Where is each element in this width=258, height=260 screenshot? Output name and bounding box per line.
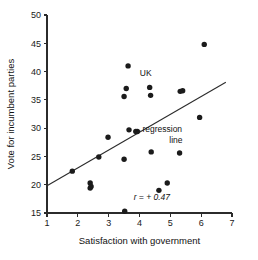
y-tick-label: 35 bbox=[31, 95, 41, 105]
x-tick-label: 5 bbox=[168, 218, 173, 228]
annotations-group: UK←regressionliner = + 0.47 bbox=[134, 68, 183, 202]
x-tick-label: 6 bbox=[199, 218, 204, 228]
data-point bbox=[121, 94, 126, 99]
data-point bbox=[148, 93, 153, 98]
y-tick-label: 30 bbox=[31, 123, 41, 133]
regression-label-line2: line bbox=[169, 135, 183, 145]
data-point bbox=[96, 154, 101, 159]
data-point bbox=[121, 157, 126, 162]
x-tick-label: 4 bbox=[137, 218, 142, 228]
correlation-label: r = + 0.47 bbox=[134, 192, 171, 202]
y-tick-label: 15 bbox=[31, 208, 41, 218]
plot-area: 1520253035404550 1234567 UK←regressionli… bbox=[0, 0, 258, 260]
data-point bbox=[124, 86, 129, 91]
x-axis-title: Satisfaction with government bbox=[79, 235, 201, 246]
data-point bbox=[125, 63, 130, 68]
data-point bbox=[202, 42, 207, 47]
data-point bbox=[165, 180, 170, 185]
x-tick-label: 2 bbox=[75, 218, 80, 228]
y-tick-label: 25 bbox=[31, 152, 41, 162]
y-tick-label: 20 bbox=[31, 180, 41, 190]
data-point bbox=[88, 184, 93, 189]
data-point bbox=[197, 115, 202, 120]
y-tick-label: 50 bbox=[31, 10, 41, 20]
y-axis-ticks: 1520253035404550 bbox=[31, 10, 47, 218]
y-axis-title: Vote for incumbent parties bbox=[5, 59, 16, 170]
x-tick-label: 1 bbox=[44, 218, 49, 228]
regression-label-line1: ←regression bbox=[134, 124, 182, 134]
x-axis-ticks: 1234567 bbox=[44, 213, 234, 228]
scatter-chart: 1520253035404550 1234567 UK←regressionli… bbox=[0, 0, 258, 260]
uk-label: UK bbox=[140, 68, 152, 78]
data-point bbox=[122, 209, 127, 214]
y-tick-label: 45 bbox=[31, 39, 41, 49]
data-point bbox=[126, 127, 131, 132]
data-point bbox=[147, 85, 152, 90]
data-point bbox=[105, 134, 110, 139]
data-point bbox=[180, 88, 185, 93]
y-tick-label: 40 bbox=[31, 67, 41, 77]
data-point bbox=[177, 150, 182, 155]
x-tick-label: 3 bbox=[106, 218, 111, 228]
data-point bbox=[70, 168, 75, 173]
x-tick-label: 7 bbox=[229, 218, 234, 228]
data-point bbox=[149, 149, 154, 154]
